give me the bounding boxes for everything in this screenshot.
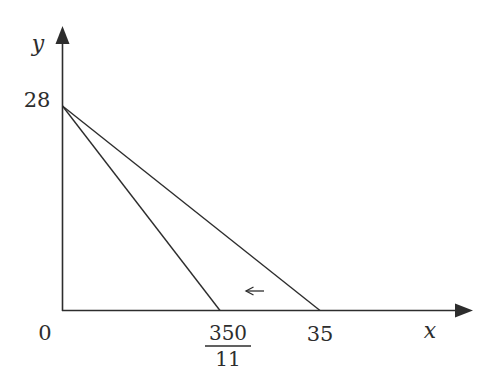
line-inner-shifted xyxy=(63,106,221,311)
inner-x-intercept-numerator: 350 xyxy=(209,321,247,345)
y-axis-arrowhead-icon xyxy=(56,26,70,44)
math-graph-figure: y 28 0 350 11 35 x xyxy=(0,0,500,387)
graph-canvas: y 28 0 350 11 35 x xyxy=(0,0,500,387)
y-axis-label: y xyxy=(31,31,45,56)
x-axis-arrowhead-icon xyxy=(455,304,473,318)
outer-x-intercept-label: 35 xyxy=(307,322,334,346)
x-axis-label: x xyxy=(424,318,437,343)
shift-left-arrow-icon xyxy=(246,287,264,295)
y-intercept-label: 28 xyxy=(24,88,51,112)
inner-x-intercept-denominator: 11 xyxy=(215,347,240,371)
line-outer xyxy=(63,106,321,311)
origin-label: 0 xyxy=(38,321,51,345)
